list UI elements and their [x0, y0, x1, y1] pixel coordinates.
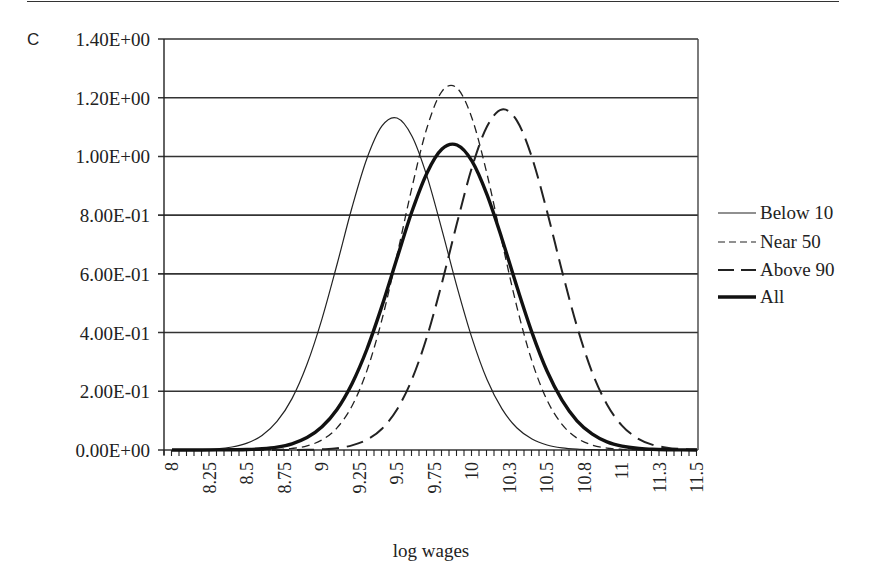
x-tick-label: 9.75	[425, 462, 445, 494]
y-tick-label: 4.00E-01	[80, 323, 150, 344]
x-tick-label: 8.25	[200, 462, 220, 494]
series-lines	[172, 85, 697, 450]
x-tick-label: 9.5	[387, 462, 407, 485]
y-tick-label: 6.00E-01	[80, 264, 150, 285]
y-tick-label: 8.00E-01	[80, 205, 150, 226]
x-tick-label: 10.8	[575, 462, 595, 494]
legend-item-near-50: Near 50	[718, 231, 821, 252]
x-axis-title: log wages	[393, 540, 470, 561]
series-line-below-10	[172, 118, 697, 450]
legend-item-above-90: Above 90	[718, 259, 834, 280]
x-tick-label: 9.25	[350, 462, 370, 494]
y-tick-label: 1.20E+00	[75, 88, 150, 109]
y-tick-label: 0.00E+00	[75, 440, 150, 461]
line-chart: 0.00E+002.00E-014.00E-016.00E-018.00E-01…	[0, 0, 885, 585]
x-tick-label: 11.5	[687, 462, 707, 493]
legend-label: Above 90	[760, 259, 834, 280]
y-tick-label: 1.00E+00	[75, 146, 150, 167]
x-tick-label: 10.3	[500, 462, 520, 494]
x-axis: 88.258.58.7599.259.59.751010.310.510.811…	[162, 450, 707, 494]
x-tick-label: 8	[162, 462, 182, 471]
legend: Below 10 Near 50 Above 90 All	[718, 202, 834, 307]
x-tick-label: 11	[612, 462, 632, 479]
legend-label: Near 50	[760, 231, 821, 252]
x-tick-label: 10.5	[537, 462, 557, 494]
x-tick-label: 11.3	[650, 462, 670, 493]
y-axis: 0.00E+002.00E-014.00E-016.00E-018.00E-01…	[75, 29, 164, 461]
y-tick-label: 2.00E-01	[80, 381, 150, 402]
gridlines	[158, 39, 698, 450]
legend-item-all: All	[718, 286, 784, 307]
x-tick-label: 9	[312, 462, 332, 471]
series-line-all	[172, 144, 697, 450]
y-tick-label: 1.40E+00	[75, 29, 150, 50]
legend-label: Below 10	[760, 202, 833, 223]
x-tick-label: 8.75	[275, 462, 295, 494]
series-line-near-50	[172, 85, 697, 450]
x-tick-label: 10	[462, 462, 482, 480]
x-tick-label: 8.5	[237, 462, 257, 485]
legend-label: All	[760, 286, 784, 307]
legend-item-below-10: Below 10	[718, 202, 833, 223]
